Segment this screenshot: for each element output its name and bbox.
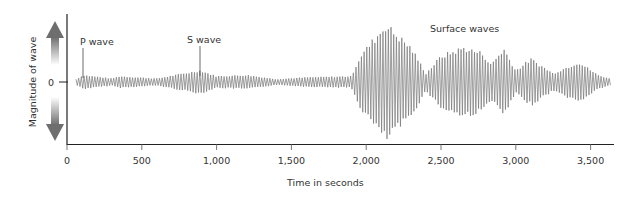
x-tick-label: 3,000	[502, 155, 529, 166]
x-tick-label: 500	[133, 155, 151, 166]
y-axis-label: Magnitude of wave	[27, 37, 38, 128]
seismogram-trace	[76, 27, 611, 139]
y-tick-zero: 0	[48, 77, 54, 88]
x-tick-label: 3,500	[577, 155, 604, 166]
x-tick-label: 1,000	[203, 155, 230, 166]
up-arrow-icon	[46, 21, 64, 65]
p-wave-label: P wave	[80, 36, 114, 47]
x-tick-label: 1,500	[278, 155, 305, 166]
x-axis-ticks: 05001,0001,5002,0002,5003,0003,500	[64, 144, 604, 166]
x-tick-label: 2,500	[427, 155, 454, 166]
x-axis-label: Time in seconds	[286, 177, 364, 188]
s-wave-label: S wave	[187, 34, 221, 45]
x-tick-label: 2,000	[353, 155, 380, 166]
down-arrow-icon	[46, 97, 64, 141]
x-tick-label: 0	[64, 155, 70, 166]
seismogram-chart: Magnitude of wave 0 05001,0001,5002,0002…	[0, 0, 644, 198]
surface-waves-label: Surface waves	[430, 23, 499, 34]
